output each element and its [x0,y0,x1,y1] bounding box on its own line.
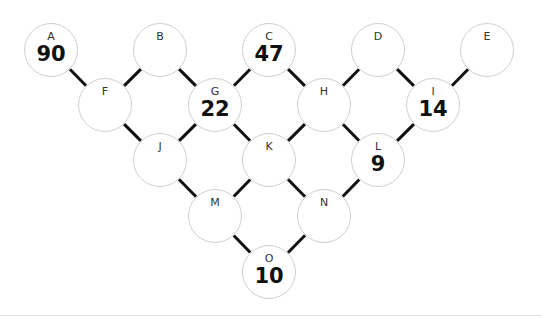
edge-l-n [343,179,360,196]
node-label: B [134,31,186,43]
node-label: N [298,197,350,209]
edge-j-m [179,179,196,196]
node-h: H [297,78,351,132]
node-label: E [461,31,513,43]
node-a: A90 [24,23,78,77]
divider [0,315,542,316]
edge-h-k [288,124,305,141]
edge-f-j [124,124,141,141]
node-label: K [243,141,295,153]
edge-i-l [397,124,414,141]
node-l: L9 [351,133,405,187]
node-o: O10 [242,245,296,299]
node-label: F [79,86,131,98]
node-m: M [188,189,242,243]
edge-g-j [179,124,196,141]
node-value: 22 [189,97,241,121]
edge-a-f [70,69,86,85]
node-c: C47 [242,23,296,77]
node-value: 14 [407,97,459,121]
edge-d-h [343,69,359,85]
edge-d-i [397,69,414,86]
node-e: E [460,23,514,77]
node-g: G22 [188,78,242,132]
edge-g-k [234,124,250,140]
node-n: N [297,189,351,243]
node-d: D [351,23,405,77]
edge-k-m [234,179,251,196]
edge-h-l [343,124,359,140]
node-value: 9 [352,152,404,176]
edge-c-h [288,69,305,86]
edge-b-f [124,69,141,86]
edge-n-o [288,235,305,252]
edge-m-o [234,235,251,252]
node-k: K [242,133,296,187]
edge-k-n [288,179,305,196]
node-label: M [189,197,241,209]
edge-c-g [234,69,250,85]
edge-b-g [179,69,196,86]
node-i: I14 [406,78,460,132]
node-j: J [133,133,187,187]
node-label: J [134,141,186,153]
edge-e-i [452,69,468,85]
node-value: 90 [25,42,77,66]
node-label: D [352,31,404,43]
node-value: 10 [243,264,295,288]
node-value: 47 [243,42,295,66]
node-f: F [78,78,132,132]
node-label: H [298,86,350,98]
node-b: B [133,23,187,77]
